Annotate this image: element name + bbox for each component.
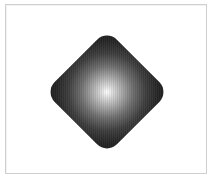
gradient-banding-overlay [45, 30, 169, 154]
canvas-frame [5, 4, 207, 174]
radial-gradient-diamond [45, 30, 169, 154]
